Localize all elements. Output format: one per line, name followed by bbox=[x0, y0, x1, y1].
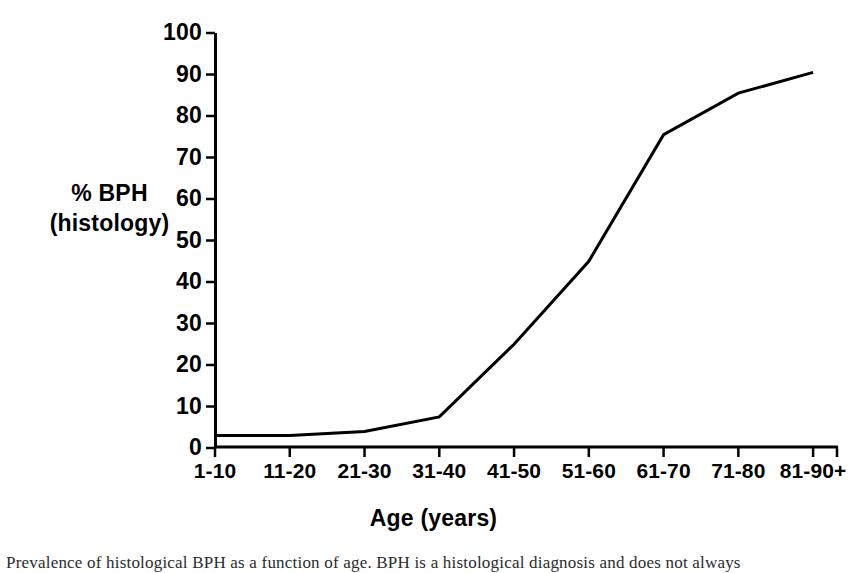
y-tick-label: 70 bbox=[144, 146, 202, 169]
axis-lines bbox=[215, 33, 838, 448]
bph-prevalence-line bbox=[215, 72, 813, 435]
y-tick-label: 20 bbox=[144, 353, 202, 376]
plot-area bbox=[215, 33, 838, 448]
x-tick-label: 81-90+ bbox=[758, 458, 867, 484]
y-tick-label: 0 bbox=[144, 436, 202, 459]
y-tick-label: 60 bbox=[144, 187, 202, 210]
y-tick-label: 90 bbox=[144, 63, 202, 86]
y-tick-label: 40 bbox=[144, 270, 202, 293]
plot-svg bbox=[215, 33, 838, 448]
y-tick-label: 30 bbox=[144, 312, 202, 335]
y-tick-label: 10 bbox=[144, 395, 202, 418]
y-tick-label: 50 bbox=[144, 229, 202, 252]
x-axis-title: Age (years) bbox=[0, 505, 867, 532]
axis-tickmarks bbox=[206, 33, 837, 457]
x-axis-tick-labels: 1-1011-2021-3031-4041-5051-6061-7071-808… bbox=[180, 458, 867, 492]
y-tick-label: 100 bbox=[144, 21, 202, 44]
figure-caption: Prevalence of histological BPH as a func… bbox=[6, 552, 864, 573]
y-tick-label: 80 bbox=[144, 104, 202, 127]
